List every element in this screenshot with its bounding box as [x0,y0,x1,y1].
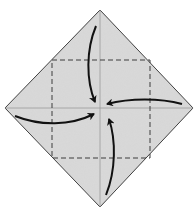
paper-texture [5,10,193,207]
origami-diagram [0,0,195,209]
